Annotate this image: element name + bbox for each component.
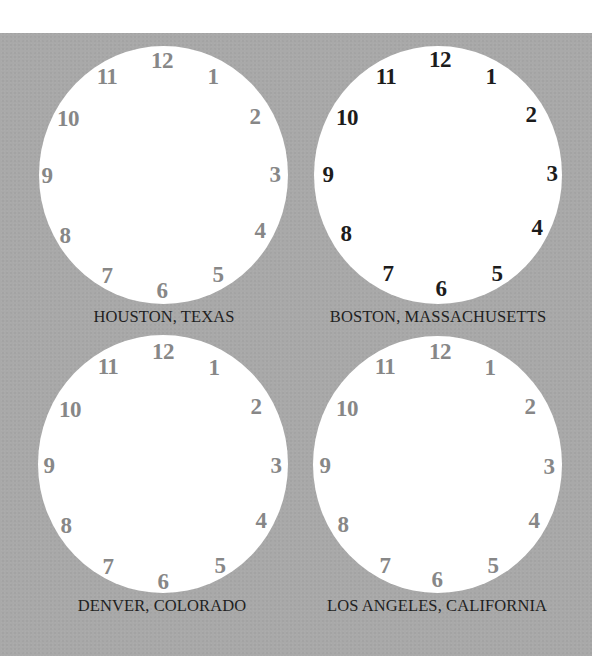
clock-numeral-los-angeles-california-4: 4: [529, 509, 540, 532]
clock-numeral-los-angeles-california-9: 9: [320, 454, 331, 477]
clock-numeral-houston-texas-7: 7: [102, 264, 113, 287]
clock-face-los-angeles-california: [313, 336, 562, 593]
clock-numeral-boston-massachusetts-5: 5: [492, 262, 503, 285]
clock-numeral-denver-colorado-7: 7: [103, 555, 114, 578]
clock-numeral-houston-texas-11: 11: [97, 65, 118, 88]
clock-numeral-houston-texas-3: 3: [270, 163, 281, 186]
clock-numeral-denver-colorado-6: 6: [158, 570, 169, 593]
clock-numeral-boston-massachusetts-2: 2: [526, 103, 537, 126]
clock-numeral-houston-texas-9: 9: [42, 164, 53, 187]
clock-numeral-houston-texas-8: 8: [60, 224, 71, 247]
clock-numeral-houston-texas-12: 12: [151, 49, 173, 72]
clock-numeral-houston-texas-1: 1: [208, 65, 219, 88]
clock-numeral-denver-colorado-10: 10: [59, 398, 81, 421]
clock-numeral-los-angeles-california-5: 5: [488, 554, 499, 577]
clock-numeral-los-angeles-california-3: 3: [544, 455, 555, 478]
clock-numeral-boston-massachusetts-4: 4: [532, 216, 543, 239]
clock-numeral-boston-massachusetts-7: 7: [383, 262, 394, 285]
clock-numeral-houston-texas-2: 2: [250, 105, 261, 128]
clock-face-denver-colorado: [38, 335, 288, 593]
clock-numeral-los-angeles-california-1: 1: [485, 356, 496, 379]
clock-numeral-boston-massachusetts-12: 12: [429, 48, 451, 71]
clock-numeral-boston-massachusetts-10: 10: [336, 106, 358, 129]
clock-numeral-denver-colorado-5: 5: [215, 554, 226, 577]
clock-face-boston-massachusetts: [314, 46, 562, 304]
clock-numeral-los-angeles-california-12: 12: [429, 340, 451, 363]
clock-numeral-houston-texas-4: 4: [255, 219, 266, 242]
clock-numeral-los-angeles-california-2: 2: [525, 395, 536, 418]
clock-numeral-denver-colorado-9: 9: [44, 454, 55, 477]
clock-numeral-los-angeles-california-6: 6: [432, 568, 443, 591]
clock-numeral-denver-colorado-8: 8: [61, 514, 72, 537]
clock-numeral-denver-colorado-2: 2: [251, 395, 262, 418]
clock-numeral-houston-texas-6: 6: [157, 279, 168, 302]
clock-numeral-boston-massachusetts-8: 8: [341, 222, 352, 245]
clock-numeral-houston-texas-10: 10: [57, 107, 79, 130]
clock-numeral-los-angeles-california-10: 10: [336, 397, 358, 420]
city-label-los-angeles-california: LOS ANGELES, CALIFORNIA: [327, 598, 547, 615]
clock-numeral-boston-massachusetts-9: 9: [323, 163, 334, 186]
clock-numeral-boston-massachusetts-3: 3: [547, 162, 558, 185]
clock-numeral-boston-massachusetts-11: 11: [376, 65, 397, 88]
clock-numeral-los-angeles-california-8: 8: [338, 513, 349, 536]
city-label-boston-massachusetts: BOSTON, MASSACHUSETTS: [330, 309, 546, 326]
clock-numeral-los-angeles-california-7: 7: [380, 554, 391, 577]
clock-numeral-boston-massachusetts-1: 1: [486, 65, 497, 88]
clock-face-houston-texas: [39, 46, 288, 304]
clock-numeral-denver-colorado-3: 3: [271, 454, 282, 477]
clock-numeral-denver-colorado-12: 12: [152, 340, 174, 363]
clock-numeral-houston-texas-5: 5: [213, 263, 224, 286]
clock-numeral-denver-colorado-1: 1: [209, 356, 220, 379]
clock-numeral-boston-massachusetts-6: 6: [436, 277, 447, 300]
city-label-houston-texas: HOUSTON, TEXAS: [93, 309, 234, 326]
clock-numeral-los-angeles-california-11: 11: [375, 355, 396, 378]
clock-numeral-denver-colorado-4: 4: [256, 509, 267, 532]
city-label-denver-colorado: DENVER, COLORADO: [78, 598, 246, 615]
clock-numeral-denver-colorado-11: 11: [98, 355, 119, 378]
